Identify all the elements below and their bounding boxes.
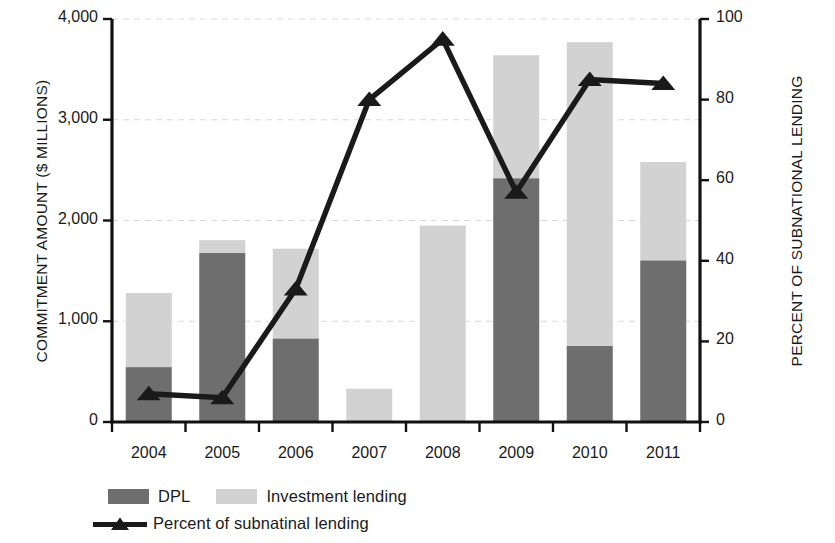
y-tick-left-3000: 3,000	[28, 109, 98, 127]
bar-investment-2004	[126, 293, 172, 367]
y-tick-right-80: 80	[716, 89, 786, 107]
legend-line-triangle-icon	[93, 516, 147, 532]
chart-legend: DPL Investment lending Percent of subnat…	[0, 487, 835, 543]
bar-dpl-2006	[273, 338, 319, 422]
legend-row-line: Percent of subnatinal lending	[93, 514, 369, 533]
legend-label-investment: Investment lending	[266, 487, 406, 506]
line-marker-2008	[431, 31, 455, 46]
y-tick-right-40: 40	[716, 250, 786, 268]
y-tick-left-2000: 2,000	[28, 210, 98, 228]
bar-investment-2011	[640, 162, 686, 260]
chart-figure: COMMITMENT AMOUNT ($ MILLIONS) PERCENT O…	[0, 0, 835, 543]
bar-investment-2010	[567, 42, 613, 346]
y-tick-left-1000: 1,000	[28, 310, 98, 328]
x-tick-2010: 2010	[550, 444, 630, 462]
bar-dpl-2010	[567, 346, 613, 422]
legend-row-bars: DPL Investment lending	[108, 487, 407, 506]
bars-group	[126, 42, 687, 422]
legend-swatch-dpl-icon	[108, 489, 149, 504]
legend-swatch-investment-icon	[216, 489, 257, 504]
y-tick-left-4000: 4,000	[28, 8, 98, 26]
legend-label-percent: Percent of subnatinal lending	[153, 514, 369, 533]
bar-dpl-2011	[640, 260, 686, 422]
y-tick-right-100: 100	[716, 8, 786, 26]
x-tick-2009: 2009	[476, 444, 556, 462]
x-tick-2008: 2008	[403, 444, 483, 462]
bar-investment-2005	[199, 240, 245, 253]
x-tick-2011: 2011	[623, 444, 703, 462]
y-tick-right-20: 20	[716, 330, 786, 348]
x-tick-2005: 2005	[182, 444, 262, 462]
bar-investment-2007	[346, 389, 392, 422]
x-tick-2006: 2006	[256, 444, 336, 462]
legend-label-dpl: DPL	[158, 487, 190, 506]
bar-investment-2008	[420, 226, 466, 422]
y-tick-left-0: 0	[28, 411, 98, 429]
x-tick-2007: 2007	[329, 444, 409, 462]
x-tick-2004: 2004	[109, 444, 189, 462]
bar-dpl-2009	[493, 178, 539, 422]
y-tick-right-0: 0	[716, 411, 786, 429]
y-tick-right-60: 60	[716, 169, 786, 187]
